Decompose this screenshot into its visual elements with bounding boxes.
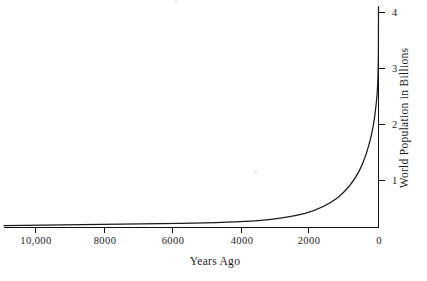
population-curve <box>4 7 379 226</box>
x-tick-label-2000: 2000 <box>298 236 321 247</box>
y-tick-label-3: 3 <box>392 64 398 75</box>
population-growth-chart: 10,000 8000 6000 4000 2000 0 1 2 3 4 Yea… <box>0 0 427 281</box>
scan-speck-artifact <box>254 171 257 174</box>
y-tick-label-1: 1 <box>392 176 398 187</box>
axis-lines <box>4 6 379 228</box>
y-tick-label-4: 4 <box>392 8 398 19</box>
scan-speck-artifact-top <box>174 0 178 2</box>
x-tick-label-10000: 10,000 <box>20 236 51 247</box>
x-axis-title: Years Ago <box>190 255 240 267</box>
y-axis-ticks <box>379 13 385 181</box>
x-axis-ticks <box>36 228 309 233</box>
x-tick-label-8000: 8000 <box>94 236 117 247</box>
chart-canvas <box>0 0 427 281</box>
x-tick-label-6000: 6000 <box>162 236 185 247</box>
x-tick-label-0: 0 <box>376 236 382 247</box>
x-tick-label-4000: 4000 <box>231 236 254 247</box>
y-axis-title: World Population in Billions <box>398 48 410 189</box>
y-tick-label-2: 2 <box>392 120 398 131</box>
